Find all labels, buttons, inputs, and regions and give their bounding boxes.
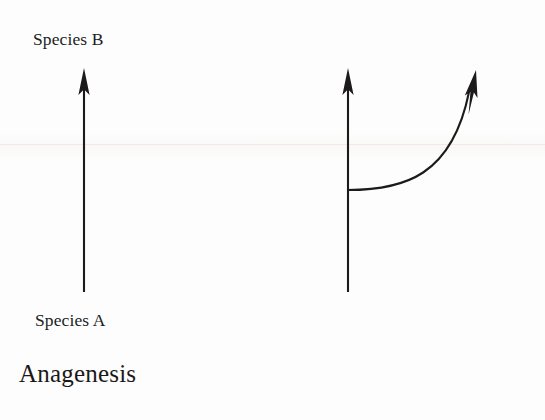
cladogenesis-lineage-graphic [272, 0, 545, 420]
anagenesis-lineage-graphic [0, 0, 272, 420]
cladogenesis-branch-arrowhead-icon [465, 70, 478, 115]
panel-cladogenesis: Species A Species B Species A Cladogenes… [272, 0, 545, 420]
anagenesis-descendant-label: Species B [33, 29, 103, 49]
cladogenesis-branch-lineage-curve [348, 92, 469, 190]
anagenesis-ancestor-label: Species A [35, 310, 105, 330]
panel-anagenesis: Species B Species A Anagenesis [0, 0, 272, 420]
anagenesis-panel-title: Anagenesis [19, 360, 136, 388]
evolution-diagram-figure: Species B Species A Anagenesis Species A… [0, 0, 545, 420]
cladogenesis-main-arrowhead-icon [342, 68, 353, 113]
anagenesis-arrowhead-icon [78, 68, 89, 113]
